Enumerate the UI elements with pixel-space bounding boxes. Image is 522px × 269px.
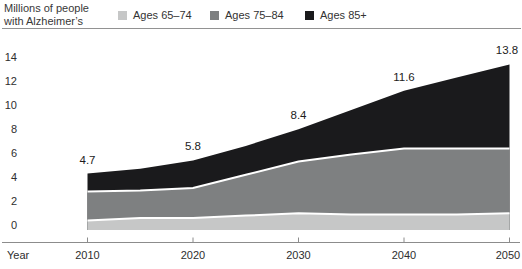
x-tick-label: 2050 [496,249,520,261]
x-tick-label: 2020 [181,249,205,261]
x-tick-label: 2010 [75,249,99,261]
y-tick-label: 2 [11,195,17,207]
data-point-label: 5.8 [185,140,201,152]
data-point-label: 13.8 [496,44,518,56]
data-point-label: 11.6 [393,71,415,83]
data-point-label: 4.7 [80,154,96,166]
y-tick-label: 12 [5,75,17,87]
x-axis-title: Year [7,249,30,261]
stacked-area-chart: 0246810121420102020203020402050Year4.75.… [0,0,522,269]
y-tick-label: 0 [11,219,17,231]
y-tick-label: 6 [11,147,17,159]
y-tick-label: 14 [5,51,17,63]
data-point-label: 8.4 [291,109,308,121]
x-tick-label: 2030 [286,249,310,261]
y-tick-label: 10 [5,99,17,111]
x-tick-label: 2040 [392,249,416,261]
y-tick-label: 8 [11,123,17,135]
alzheimers-projection-figure: Millions of people with Alzheimer’s Ages… [0,0,522,269]
y-tick-label: 4 [11,171,17,183]
